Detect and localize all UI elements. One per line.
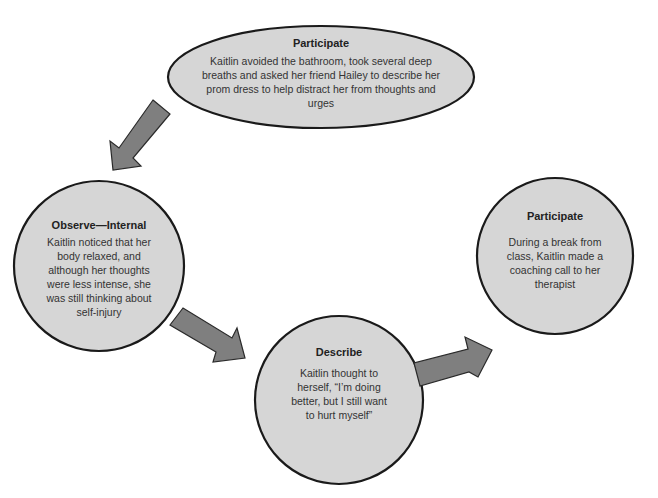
node-observe-internal: Observe—Internal Kaitlin noticed that he…	[42, 218, 156, 319]
node-title: Participate	[506, 209, 604, 223]
node-participate-top: Participate Kaitlin avoided the bathroom…	[196, 36, 446, 110]
node-participate-right: Participate During a break from class, K…	[506, 209, 604, 291]
arrow-up-right-icon	[414, 337, 492, 386]
node-body: During a break from class, Kaitlin made …	[506, 235, 604, 291]
arrow-down-right-icon	[170, 308, 245, 362]
node-body: Kaitlin thought to herself, “I’m doing b…	[286, 366, 392, 422]
node-title: Participate	[196, 36, 446, 50]
node-body: Kaitlin noticed that her body relaxed, a…	[42, 235, 156, 319]
node-describe: Describe Kaitlin thought to herself, “I’…	[286, 345, 392, 422]
arrow-down-left-icon	[110, 100, 170, 170]
node-body: Kaitlin avoided the bathroom, took sever…	[196, 54, 446, 110]
node-title: Observe—Internal	[42, 218, 156, 232]
node-title: Describe	[286, 345, 392, 359]
